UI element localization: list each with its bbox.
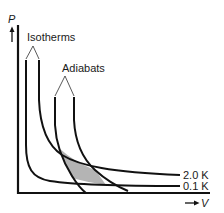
x-axis-label: V (201, 198, 208, 209)
isotherm-label-0.1K: 0.1 K (183, 181, 209, 192)
p-axis-arrowhead-icon (10, 27, 15, 33)
adiabat-pointer-line (65, 76, 74, 96)
isotherms-label: Isotherms (27, 32, 75, 43)
pv-diagram: P V Isotherms Adiabats 2.0 K 0.1 K (0, 0, 224, 213)
y-axis-label: P (8, 14, 15, 25)
adiabats-label: Adiabats (62, 63, 105, 74)
isotherm-curve-0.1K (26, 60, 180, 186)
adiabat-pointer-line (55, 76, 65, 96)
isotherm-curve-2.0K (39, 60, 180, 175)
isotherm-pointer-line (26, 46, 33, 59)
v-axis-arrowhead-icon (194, 201, 200, 206)
isotherm-pointer-line (33, 46, 39, 59)
